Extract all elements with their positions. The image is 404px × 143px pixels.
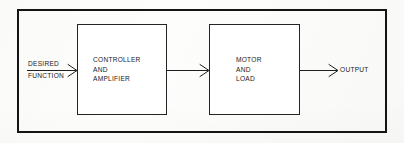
intermediate-signal-arrow [167, 65, 209, 77]
output-signal-label: OUTPUT [340, 66, 369, 73]
input-signal-label-function: FUNCTION [28, 72, 64, 79]
block-controller-amplifier-label: CONTROLLER AND AMPLIFIER [93, 55, 141, 84]
input-signal-label-desired: DESIRED [28, 60, 59, 67]
block-diagram: CONTROLLER AND AMPLIFIER MOTOR AND LOAD … [0, 0, 404, 143]
block-motor-load-label: MOTOR AND LOAD [236, 55, 262, 84]
output-signal-arrow [300, 65, 338, 77]
